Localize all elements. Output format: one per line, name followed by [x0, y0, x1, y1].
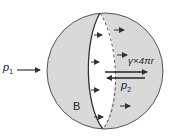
p2-label: p2 [121, 80, 131, 93]
surface-tension-label: γ×4πr [128, 56, 154, 66]
p1-label: p1 [3, 62, 13, 75]
bubble-diagram [0, 0, 171, 139]
region-b-label: B [73, 101, 80, 112]
